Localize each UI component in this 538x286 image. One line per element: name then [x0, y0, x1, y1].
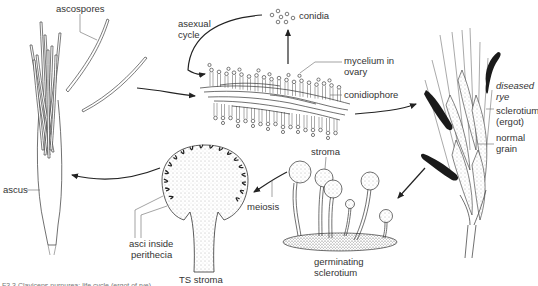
label-mycelium-line1: mycelium in	[344, 55, 394, 66]
conidium	[266, 122, 270, 126]
conidiophore-lower	[297, 114, 300, 125]
conidiophore-upper	[300, 83, 303, 97]
conidiophore-lower	[274, 111, 277, 122]
label-sclerotium-line2: (ergot)	[496, 116, 524, 127]
conidium	[285, 78, 289, 82]
arrow-to-ascus	[72, 168, 160, 179]
conidium	[251, 119, 255, 123]
conidium	[238, 68, 241, 71]
conidium	[259, 122, 263, 126]
conidium	[326, 131, 330, 135]
conidiophore-upper	[293, 84, 296, 96]
conidium	[227, 67, 230, 70]
conidiophore-upper	[270, 81, 273, 93]
arrow-to-rye	[355, 104, 416, 114]
conidium	[317, 78, 320, 81]
conidiophore-lower	[304, 115, 307, 128]
figure-caption: F3.3 Claviceps purpurea: life cycle (erg…	[2, 282, 151, 286]
arrow-meiosis	[254, 172, 287, 192]
conidium	[244, 119, 248, 123]
conidium	[229, 116, 233, 120]
conidium	[322, 82, 326, 86]
conidiophore-upper	[263, 79, 266, 92]
conidium	[277, 76, 281, 80]
conidiophore-lower	[267, 110, 270, 122]
conidium	[328, 79, 331, 82]
label-asexual-line2: cycle	[178, 29, 200, 40]
label-diseased-line1: diseased	[496, 80, 535, 91]
conidium	[330, 84, 334, 88]
conidium	[289, 125, 293, 129]
conidiophore-lower	[222, 104, 225, 116]
label-normal-line2: grain	[496, 143, 517, 154]
label-normal-line1: normal	[496, 132, 525, 143]
label-diseased-line2: rye	[496, 91, 509, 102]
conidiophore-upper	[285, 82, 288, 95]
conidium	[262, 76, 266, 80]
label-asexual-line1: asexual	[178, 18, 211, 29]
label-mycelium-line2: ovary	[344, 66, 367, 77]
conidiophore-lower	[259, 109, 262, 122]
conidium	[296, 130, 299, 133]
conidium	[270, 77, 274, 81]
conidiophore-upper	[315, 87, 318, 99]
conidium	[296, 125, 300, 129]
conidiophore-upper	[330, 87, 333, 100]
conidium	[287, 73, 290, 76]
conidiophore-lower	[282, 112, 285, 125]
conidium	[266, 127, 269, 130]
label-ts-stroma: TS stroma	[179, 274, 224, 285]
conidium	[337, 86, 341, 90]
conidiophore-lower	[327, 118, 330, 131]
conidium	[315, 83, 319, 87]
conidiophore-lower	[229, 105, 232, 116]
conidium	[268, 73, 271, 76]
conidium	[232, 71, 236, 75]
conidium	[281, 130, 284, 133]
label-stroma: stroma	[311, 146, 341, 157]
conidium	[326, 136, 329, 139]
conidiophore-lower	[334, 119, 337, 131]
label-sclerotium-line1: sclerotium	[496, 105, 538, 116]
conidium	[319, 128, 323, 132]
conidiophore-lower	[237, 106, 240, 119]
conidium	[298, 74, 301, 77]
conidium	[214, 116, 218, 120]
arrow-to-mycelium	[137, 88, 195, 96]
conidium	[307, 81, 311, 85]
conidium	[247, 75, 251, 79]
conidiophore-lower	[244, 107, 247, 119]
conidium	[281, 125, 285, 129]
conidiophore-upper	[210, 72, 213, 86]
conidia-cluster	[270, 9, 295, 24]
conidium	[210, 68, 214, 72]
ascospore-bundle	[30, 22, 61, 158]
conidium	[217, 70, 221, 74]
label-germinating-line1: germinating	[314, 256, 364, 267]
label-conidiophore: conidiophore	[344, 89, 398, 100]
perithecium	[242, 173, 246, 176]
arrow-to-germinating-sclerotium	[398, 168, 425, 198]
conidium	[225, 72, 229, 76]
free-ascospores	[66, 19, 147, 112]
conidium	[311, 128, 315, 132]
conidiophore-lower	[312, 116, 315, 128]
conidium	[221, 116, 225, 120]
conidiophore-upper	[255, 77, 258, 91]
mycelium-drawing	[200, 63, 350, 139]
conidiophore-upper	[248, 79, 251, 91]
conidium	[274, 122, 278, 126]
label-ascospores: ascospores	[56, 3, 105, 14]
conidium	[251, 124, 254, 127]
label-asci-line2: perithecia	[131, 249, 173, 260]
conidium	[334, 131, 338, 135]
conidiophore-lower	[289, 113, 292, 125]
conidium	[221, 121, 224, 124]
conidiophore-lower	[214, 103, 217, 116]
ts-stroma-drawing	[162, 145, 248, 272]
ergot-life-cycle-diagram: ascospores asexual cycle conidia myceliu…	[0, 0, 538, 286]
conidium	[257, 69, 260, 72]
conidium	[304, 128, 308, 132]
label-asci-line1: asci inside	[129, 238, 173, 249]
conidium	[240, 73, 244, 77]
